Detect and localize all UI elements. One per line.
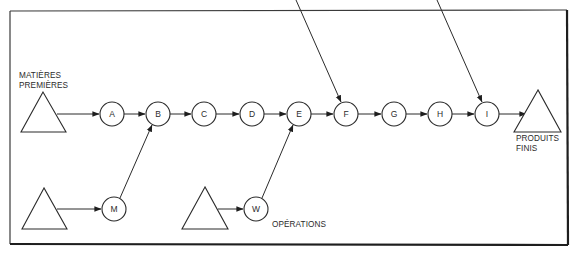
node-b-label: B <box>155 109 161 119</box>
store-finished-products <box>514 90 561 132</box>
raw-materials-label-line2: PREMIÈRES <box>19 80 69 90</box>
node-a-label: A <box>109 109 115 119</box>
node-d-label: D <box>249 109 255 119</box>
edge-external-to-f <box>296 0 341 102</box>
triangle-icon <box>514 90 561 132</box>
node-m: M <box>102 197 126 221</box>
node-a: A <box>100 102 124 126</box>
node-f: F <box>334 102 358 126</box>
frame-bottom-edge <box>10 244 568 245</box>
frame-top-edge <box>10 10 567 11</box>
operations-label: OPÉRATIONS <box>272 219 327 229</box>
node-h: H <box>428 102 452 126</box>
edge-external-to-i <box>437 0 482 102</box>
node-c-label: C <box>201 109 207 119</box>
finished-products-label-line2: FINIS <box>516 144 538 153</box>
node-m-label: M <box>110 204 117 214</box>
node-b: B <box>146 102 170 126</box>
node-e-label: E <box>296 109 302 119</box>
node-d: D <box>240 102 264 126</box>
triangle-icon <box>182 187 228 229</box>
node-g: G <box>382 102 406 126</box>
store-supply-w <box>182 187 228 229</box>
node-f-label: F <box>343 109 348 119</box>
diagram-frame <box>10 10 568 245</box>
node-i-label: I <box>486 109 488 119</box>
node-w: W <box>244 197 268 221</box>
triangle-icon <box>21 92 66 132</box>
node-w-label: W <box>252 204 260 214</box>
edge-w-to-e <box>262 125 293 198</box>
edge-m-to-b <box>120 125 152 198</box>
node-i: I <box>475 102 499 126</box>
node-e: E <box>287 102 311 126</box>
frame-right-edge <box>567 10 568 245</box>
node-c: C <box>192 102 216 126</box>
process-flow-diagram: A B C D E F G H I M W MATIÈRES PREMIÈRE <box>0 0 579 254</box>
node-g-label: G <box>391 109 398 119</box>
store-raw-materials <box>21 92 66 132</box>
raw-materials-label-line1: MATIÈRES <box>19 70 61 80</box>
finished-products-label-line1: PRODUITS <box>516 134 560 143</box>
node-h-label: H <box>437 109 443 119</box>
